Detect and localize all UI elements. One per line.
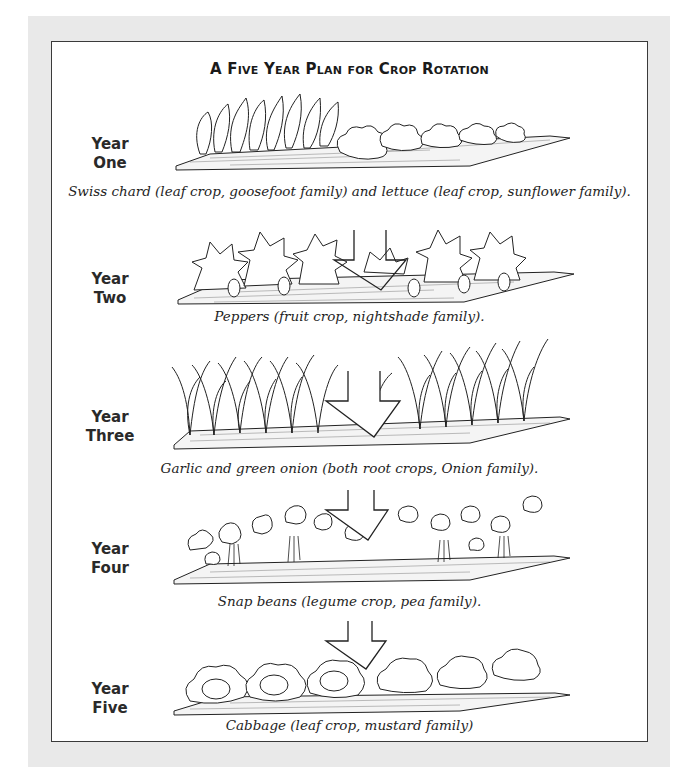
- pepper-plants-illustration: [174, 202, 594, 307]
- year-five-label: Year Five: [74, 680, 146, 718]
- year-three-label-line2: Three: [74, 427, 146, 446]
- year-four-caption: Snap beans (legume crop, pea family).: [52, 593, 647, 609]
- year-four-label: Year Four: [74, 540, 146, 578]
- down-arrow-icon: [326, 490, 388, 540]
- year-three-caption: Garlic and green onion (both root crops,…: [52, 460, 647, 476]
- year-one-caption: Swiss chard (leaf crop, goosefoot family…: [52, 183, 647, 199]
- year-three-label: Year Three: [74, 408, 146, 446]
- year-two-label-line2: Two: [74, 289, 146, 308]
- cabbage-illustration: [170, 617, 590, 717]
- year-two-caption: Peppers (fruit crop, nightshade family).: [52, 308, 647, 324]
- diagram-frame: A Five Year Plan for Crop Rotation Year …: [51, 41, 648, 742]
- year-two-label: Year Two: [74, 270, 146, 308]
- year-five-label-line1: Year: [74, 680, 146, 699]
- year-five-label-line2: Five: [74, 699, 146, 718]
- swiss-chard-lettuce-illustration: [170, 92, 590, 172]
- diagram-title: A Five Year Plan for Crop Rotation: [52, 60, 647, 78]
- year-one-label-line2: One: [74, 154, 146, 173]
- garlic-onion-illustration: [170, 337, 590, 452]
- year-four-label-line2: Four: [74, 559, 146, 578]
- year-one-label: Year One: [74, 135, 146, 173]
- snap-beans-illustration: [170, 480, 590, 585]
- year-one-label-line1: Year: [74, 135, 146, 154]
- year-five-caption: Cabbage (leaf crop, mustard family): [52, 717, 647, 733]
- year-two-label-line1: Year: [74, 270, 146, 289]
- year-four-label-line1: Year: [74, 540, 146, 559]
- year-three-label-line1: Year: [74, 408, 146, 427]
